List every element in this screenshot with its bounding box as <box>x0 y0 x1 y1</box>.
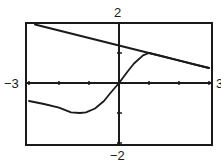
xmin-label: −3 <box>4 77 19 90</box>
xmax-label: 3 <box>216 77 221 90</box>
ymin-label: −2 <box>110 149 125 162</box>
graph-window <box>0 0 221 166</box>
ymax-label: 2 <box>114 6 121 19</box>
